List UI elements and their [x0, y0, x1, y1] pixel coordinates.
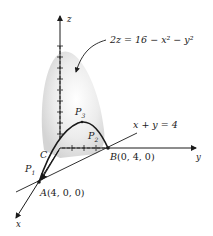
x-axis-label: x	[16, 220, 21, 229]
plane-label: x + y = 4	[133, 120, 178, 130]
point-b-label: B(0, 4, 0)	[110, 152, 155, 162]
z-axis-label: z	[67, 15, 71, 24]
point-p2-label: P2	[88, 131, 98, 143]
point-a-label: A(4, 0, 0)	[40, 188, 85, 198]
point-c-label: C	[40, 150, 47, 160]
point-p3	[81, 121, 84, 124]
y-axis-label: y	[196, 153, 201, 162]
point-a	[37, 180, 41, 184]
equation-label: 2z = 16 − x² − y²	[110, 35, 193, 45]
point-p3-label: P3	[75, 107, 85, 119]
point-p1-label: P1	[25, 164, 35, 176]
point-b	[106, 146, 110, 150]
paraboloid-diagram: z y x 2z = 16 − x² − y² x + y = 4 B(0, 4…	[0, 0, 213, 236]
